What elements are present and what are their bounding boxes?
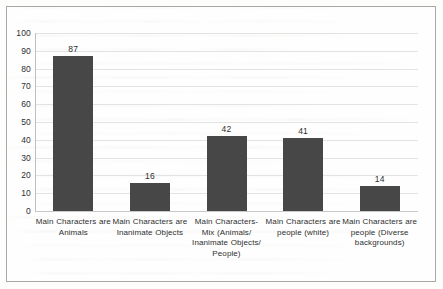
gridline bbox=[35, 33, 418, 34]
y-axis-tick-label: 20 bbox=[21, 170, 31, 180]
y-axis-tick-label: 40 bbox=[21, 135, 31, 145]
x-axis-category-label: Main Characters areInanimate Objects bbox=[112, 217, 189, 238]
x-axis-category-label-line: Main Characters are bbox=[341, 217, 418, 228]
y-axis: 0102030405060708090100 bbox=[10, 0, 31, 289]
x-axis-category-label-line: People) bbox=[188, 249, 265, 260]
x-axis-category-label-line: Main Characters are bbox=[265, 217, 342, 228]
y-axis-tick-label: 70 bbox=[21, 81, 31, 91]
y-axis-tick-label: 100 bbox=[16, 28, 31, 38]
gridline bbox=[35, 51, 418, 52]
bar-chart-figure: 0102030405060708090100 8716424114 Main C… bbox=[0, 0, 443, 289]
x-axis-category-label-line: Inanimate Objects/ bbox=[188, 238, 265, 249]
y-axis-tick-label: 50 bbox=[21, 117, 31, 127]
x-axis-category-label-line: people (white) bbox=[265, 228, 342, 239]
y-axis-tick-label: 60 bbox=[21, 99, 31, 109]
y-axis-tick-label: 30 bbox=[21, 153, 31, 163]
bar[interactable] bbox=[53, 56, 93, 211]
x-axis-category-label-line: Animals bbox=[35, 228, 112, 239]
plot-area: 0102030405060708090100 8716424114 Main C… bbox=[0, 0, 443, 289]
x-axis-category-label-line: Main Characters are bbox=[112, 217, 189, 228]
bar[interactable] bbox=[207, 136, 247, 211]
bar-value-label: 41 bbox=[298, 126, 308, 136]
x-axis-category-label-line: Main Characters- bbox=[188, 217, 265, 228]
bar-value-label: 16 bbox=[145, 171, 155, 181]
bar[interactable] bbox=[130, 183, 170, 211]
x-axis-category-label-line: Main Characters are bbox=[35, 217, 112, 228]
x-axis-category-label: Main Characters areAnimals bbox=[35, 217, 112, 238]
y-axis-line bbox=[35, 33, 36, 211]
x-axis-category-label: Main Characters arepeople (Diversebackgr… bbox=[341, 217, 418, 249]
bar-value-label: 14 bbox=[375, 174, 385, 184]
y-axis-tick-label: 80 bbox=[21, 64, 31, 74]
x-axis-line bbox=[35, 211, 418, 212]
y-axis-tick-label: 90 bbox=[21, 46, 31, 56]
x-axis-category-label-line: Mix (Animals/ bbox=[188, 228, 265, 239]
x-axis-category-label-line: people (Diverse bbox=[341, 228, 418, 239]
bar-value-label: 87 bbox=[68, 44, 78, 54]
x-axis-category-label: Main Characters-Mix (Animals/Inanimate O… bbox=[188, 217, 265, 259]
x-axis-category-label-line: Inanimate Objects bbox=[112, 228, 189, 239]
y-axis-tick-label: 10 bbox=[21, 188, 31, 198]
bar[interactable] bbox=[360, 186, 400, 211]
x-axis-category-label-line: backgrounds) bbox=[341, 238, 418, 249]
x-axis-category-label: Main Characters arepeople (white) bbox=[265, 217, 342, 238]
bar[interactable] bbox=[283, 138, 323, 211]
y-axis-tick-label: 0 bbox=[26, 206, 31, 216]
bar-value-label: 42 bbox=[222, 124, 232, 134]
